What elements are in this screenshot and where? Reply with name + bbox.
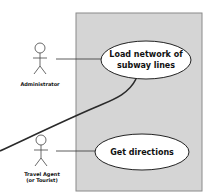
use-case-ellipse (101, 41, 191, 79)
actor-administrator[interactable]: Administrator (20, 43, 60, 87)
actor-head (35, 43, 45, 53)
actor-label: Administrator (20, 81, 60, 87)
actor-head (36, 135, 46, 145)
use-case-load-network[interactable]: Load network of subway lines (101, 41, 191, 79)
actor-travel-agent[interactable]: Travel Agent (or Tourist) (24, 135, 60, 183)
use-case-get-directions[interactable]: Get directions (95, 134, 189, 170)
actor-label-line2: (or Tourist) (26, 177, 58, 183)
use-case-label: Load network of (109, 50, 183, 59)
use-case-label: Get directions (110, 148, 174, 157)
use-case-label-line2: subway lines (117, 61, 175, 70)
use-case-diagram: Administrator Travel Agent (or Tourist) … (0, 0, 211, 196)
